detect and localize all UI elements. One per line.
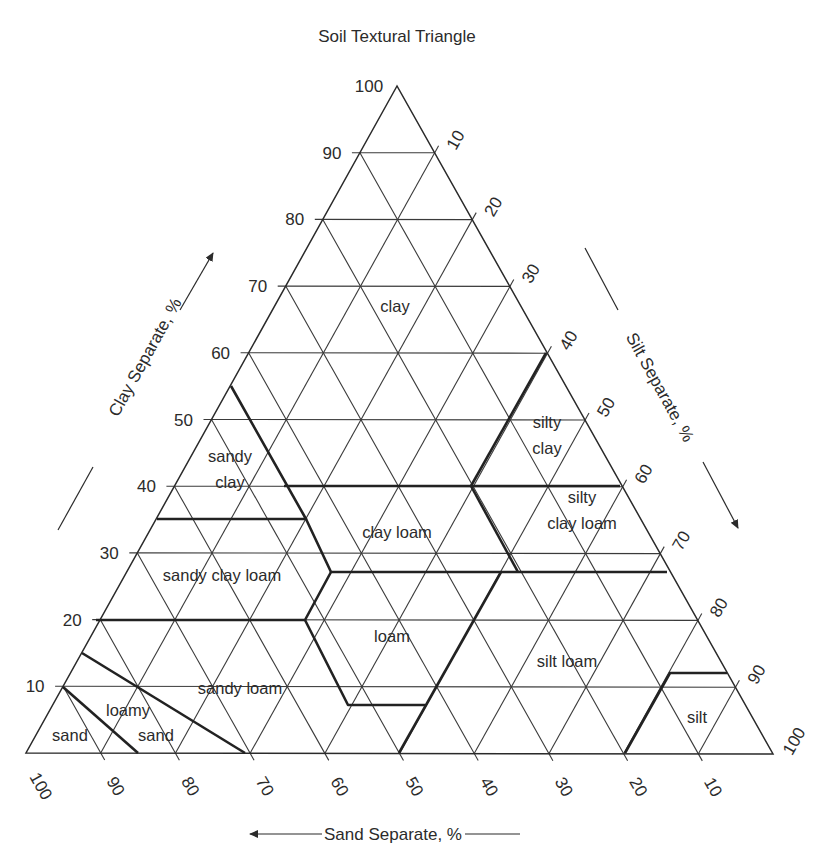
grid-line [360, 153, 702, 761]
clay-axis-arrow-icon [180, 253, 213, 310]
region-label-silty-clay-loam-1: silty [568, 488, 597, 506]
region-label-clay: clay [380, 297, 410, 315]
silt-tick-label: 70 [668, 528, 694, 554]
silt-tick-label: 30 [518, 261, 544, 287]
region-label-sandy-clay-1: sandy [208, 447, 253, 465]
sand-tick-label: 100 [25, 769, 56, 803]
silt-axis-arrow-icon [703, 462, 738, 528]
sand-axis-label: Sand Separate, % [324, 825, 462, 844]
region-label-silty-clay-1: silty [533, 413, 562, 431]
region-label-silty-clay-2: clay [532, 439, 562, 457]
region-label-sandy-clay-loam: sandy clay loam [163, 566, 281, 584]
sand-tick-label: 90 [103, 773, 129, 799]
sand-tick-label: 20 [625, 774, 651, 800]
grid-line [204, 420, 586, 421]
grid-line [63, 686, 105, 760]
clay-tick-label: 100 [355, 77, 383, 96]
grid-line [129, 553, 660, 554]
grid-line [101, 146, 439, 753]
grid-line [212, 420, 404, 761]
clay-tick-label: 10 [26, 677, 45, 696]
grid-line [55, 686, 735, 687]
clay-axis-label-group: Clay Separate, % [58, 253, 213, 530]
clay-tick-label: 70 [248, 277, 267, 296]
region-label-loamy-sand-2: sand [138, 726, 174, 744]
region-label-silty-clay-loam-2: clay loam [547, 514, 617, 532]
sand-tick-label: 30 [551, 774, 577, 800]
sand-tick-label: 40 [476, 774, 502, 800]
clay-axis-line [58, 467, 93, 530]
clay-axis-label: Clay Separate, % [105, 295, 186, 420]
grid-line [250, 279, 514, 753]
silt-axis-label: Silt Separate, % [622, 329, 698, 445]
grid-line [325, 346, 552, 753]
region-label-sandy-loam: sandy loam [198, 679, 282, 697]
clay-tick-label: 80 [285, 210, 304, 229]
silt-tick-label: 60 [631, 461, 657, 487]
grid-line [249, 353, 479, 761]
chart-title: Soil Textural Triangle [318, 27, 476, 46]
silt-tick-label: 50 [593, 394, 619, 420]
clay-tick-label: 40 [137, 477, 156, 496]
clay-tick-label: 50 [174, 411, 193, 430]
silt-tick-label: 100 [779, 724, 810, 758]
region-label-silt-loam: silt loam [537, 652, 598, 670]
silt-tick-label: 20 [480, 194, 506, 220]
silt-tick-label: 40 [556, 328, 582, 354]
sand-tick-label: 50 [401, 774, 427, 800]
sand-tick-label: 60 [327, 774, 353, 800]
region-label-loamy-sand-1: loamy [106, 701, 151, 719]
region-label-clay-loam: clay loam [362, 523, 432, 541]
soil-texture-triangle: Soil Textural Triangle 10203040506070809… [0, 0, 840, 868]
sand-tick-label: 80 [177, 774, 203, 800]
silt-tick-label: 80 [706, 595, 732, 621]
region-label-sandy-clay-2: clay [215, 473, 245, 491]
clay-tick-label: 90 [322, 144, 341, 163]
clay-tick-label: 20 [63, 611, 82, 630]
clay-tick-label: 30 [100, 544, 119, 563]
clay-tick-label: 60 [211, 344, 230, 363]
silt-axis-line [585, 248, 618, 310]
silt-tick-label: 10 [443, 127, 469, 153]
silt-tick-label: 90 [744, 662, 770, 688]
region-label-loam: loam [374, 627, 410, 645]
grid-lines [55, 146, 739, 761]
region-label-silt: silt [687, 708, 708, 726]
sand-axis-label-group: Sand Separate, % [250, 825, 520, 844]
tick-labels: 1020304050607080901001020304050607080901… [25, 77, 809, 803]
sand-tick-label: 70 [252, 774, 278, 800]
region-label-sand: sand [52, 726, 88, 744]
sand-tick-label: 10 [700, 774, 726, 800]
